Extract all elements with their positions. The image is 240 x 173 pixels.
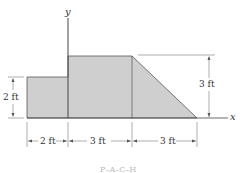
bottom-dimension-2: 3 ft bbox=[90, 137, 106, 146]
figure-caption: P–A–C–H bbox=[100, 166, 145, 172]
left-height-dimension: 2 ft bbox=[3, 93, 19, 102]
right-height-dimension: 3 ft bbox=[199, 80, 215, 89]
composite-area-figure: y x 2 ft 3 ft 2 ft 3 ft 3 ft P–A–C–H bbox=[0, 0, 240, 173]
bottom-dimension-1: 2 ft bbox=[40, 137, 56, 146]
shaded-area bbox=[27, 56, 197, 118]
x-axis-label: x bbox=[230, 112, 236, 122]
bottom-dimension-3: 3 ft bbox=[160, 137, 176, 146]
y-axis-label: y bbox=[65, 7, 71, 17]
